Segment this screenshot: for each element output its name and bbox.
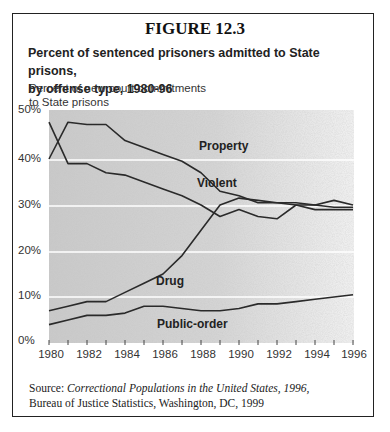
y-tick-40: 40% bbox=[18, 152, 48, 164]
source-title: Correctional Populations in the United S… bbox=[67, 382, 309, 394]
plot-area bbox=[0, 0, 390, 432]
x-tick-1996: 1996 bbox=[334, 348, 374, 360]
x-tick-1980: 1980 bbox=[31, 348, 71, 360]
y-tick-10: 10% bbox=[18, 289, 48, 301]
y-tick-30: 30% bbox=[18, 198, 48, 210]
source-note: Source: Correctional Populations in the … bbox=[29, 381, 369, 411]
x-tick-1986: 1986 bbox=[145, 348, 185, 360]
x-tick-1992: 1992 bbox=[259, 348, 299, 360]
x-tick-1994: 1994 bbox=[297, 348, 337, 360]
x-tick-1988: 1988 bbox=[183, 348, 223, 360]
source-prefix: Source: bbox=[29, 382, 67, 394]
label-public-order: Public-order bbox=[157, 317, 228, 331]
x-tick-1984: 1984 bbox=[107, 348, 147, 360]
y-tick-0: 0% bbox=[18, 334, 48, 346]
y-tick-50: 50% bbox=[18, 103, 48, 115]
x-tick-1990: 1990 bbox=[221, 348, 261, 360]
x-tick-1982: 1982 bbox=[69, 348, 109, 360]
label-property: Property bbox=[199, 139, 248, 153]
y-tick-20: 20% bbox=[18, 244, 48, 256]
label-drug: Drug bbox=[156, 274, 184, 288]
label-violent: Violent bbox=[197, 176, 237, 190]
source-line-2: Bureau of Justice Statistics, Washington… bbox=[29, 396, 369, 411]
